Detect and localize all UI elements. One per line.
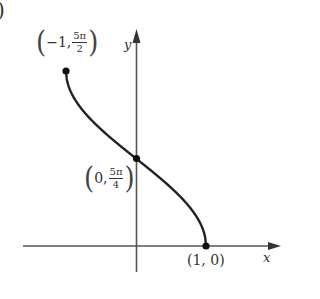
y-axis-label: y (124, 38, 131, 51)
label-mid-point: ( 0, 5π 4 ) (84, 165, 135, 191)
paren-open: ( (84, 163, 94, 193)
fraction-denominator: 2 (77, 43, 83, 54)
x-axis-arrow-icon (268, 242, 281, 250)
point-end (202, 242, 209, 249)
fraction-denominator: 4 (113, 179, 119, 190)
fraction-numerator: 5π (72, 31, 87, 43)
label-start-point: ( −1, 5π 2 ) (36, 29, 98, 55)
paren-open: ( (36, 27, 46, 57)
paren-close: ) (88, 27, 98, 57)
paren-close: ) (124, 163, 134, 193)
x-axis-label: x (263, 251, 270, 264)
label-end-point: (1, 0) (187, 253, 225, 267)
fraction: 5π 2 (72, 31, 87, 54)
fraction: 5π 4 (109, 167, 124, 190)
label-mid-x: 0, (94, 171, 107, 185)
y-axis-arrow-icon (133, 29, 141, 43)
label-start-x: −1, (46, 35, 71, 49)
point-start (62, 67, 69, 74)
fraction-numerator: 5π (109, 167, 124, 179)
